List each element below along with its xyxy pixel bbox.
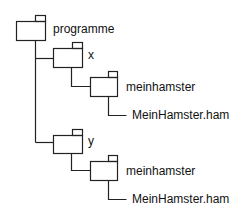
folder-label-meinhamster: meinhamster [126,164,195,178]
folder-icon [54,130,83,154]
folder-icon [54,43,83,68]
folder-label-programme: programme [53,22,114,36]
folder-icon [17,16,46,41]
folder-icon [91,156,118,181]
folder-label-y: y [88,134,94,148]
file-label-meinhamster-ham: MeinHamster.ham [132,192,229,206]
folder-icon [91,72,118,97]
folder-label-x: x [88,48,94,62]
file-label-meinhamster-ham: MeinHamster.ham [132,108,229,122]
folder-label-meinhamster: meinhamster [126,80,195,94]
